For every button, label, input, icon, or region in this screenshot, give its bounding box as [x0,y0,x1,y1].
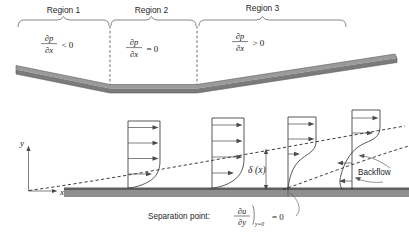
x-axis-label: x [59,187,64,197]
figure-canvas: Region 1 Region 2 Region 3 ∂p ∂x < 0 ∂p … [0,0,409,233]
backflow-label: Backflow [358,168,391,177]
region-1-dp-denominator: ∂x [45,45,53,55]
separation-point-numerator: ∂u [238,206,247,216]
bottom-wall-top-edge [64,188,409,191]
region-1-label: Region 1 [47,5,81,15]
y-axis-label: y [19,138,24,148]
separation-point-prefix: Separation point: [148,212,210,221]
region-1-dp-numerator: ∂p [45,33,54,43]
region-2-label: Region 2 [135,5,169,15]
region-2-dp-denominator: ∂x [130,49,138,59]
separation-point-subscript: y=0 [254,221,264,227]
bottom-wall [64,188,409,198]
boundary-layer-separation-figure: Region 1 Region 2 Region 3 ∂p ∂x < 0 ∂p … [0,0,409,233]
delta-argument: (x) [255,165,266,176]
separation-point-denominator: ∂y [238,217,246,227]
region-2-dp-numerator: ∂p [130,37,139,47]
region-3-relation: > 0 [253,38,265,48]
figure-background [0,0,409,233]
region-1-relation: < 0 [62,40,74,50]
separation-point-relation: = 0 [272,212,284,222]
bottom-wall-face [64,191,409,197]
region-3-dp-numerator: ∂p [236,31,245,41]
region-3-label: Region 3 [246,3,280,13]
region-3-dp-denominator: ∂x [236,43,244,53]
region-2-relation: = 0 [147,44,159,54]
delta-symbol: δ [248,165,253,175]
